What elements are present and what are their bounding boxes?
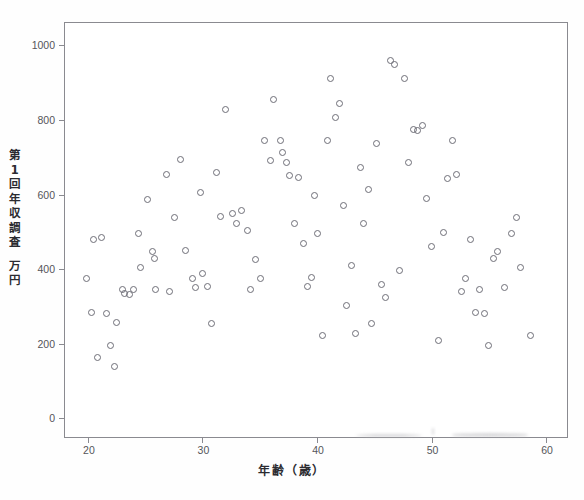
data-point <box>336 100 343 107</box>
data-point <box>327 75 334 82</box>
data-point <box>83 275 90 282</box>
data-point <box>387 57 394 64</box>
data-points-layer <box>65 23 567 437</box>
data-point <box>348 262 355 269</box>
data-point <box>261 137 268 144</box>
y-axis-title-char: 回 <box>6 177 24 192</box>
x-axis-tick: 40 <box>317 437 318 443</box>
data-point <box>314 230 321 237</box>
x-axis-tick-label: 20 <box>83 444 95 457</box>
data-point <box>283 159 290 166</box>
data-point <box>396 267 403 274</box>
data-point <box>401 75 408 82</box>
data-point <box>252 256 259 263</box>
data-point <box>304 283 311 290</box>
data-point <box>119 286 126 293</box>
data-point <box>373 140 380 147</box>
x-axis-tick: 60 <box>546 437 547 443</box>
data-point <box>103 310 110 317</box>
data-point <box>217 213 224 220</box>
data-point <box>527 332 534 339</box>
x-axis-tick-label: 40 <box>312 444 324 457</box>
data-point <box>319 332 326 339</box>
data-point <box>378 281 385 288</box>
data-point <box>247 286 254 293</box>
scan-smudge-icon <box>452 433 528 437</box>
data-point <box>144 196 151 203</box>
data-point <box>410 126 417 133</box>
y-axis-title-char: 査 <box>6 235 24 250</box>
y-axis-title-char: 万 <box>6 259 24 274</box>
y-axis-title-char: 調 <box>6 221 24 236</box>
data-point <box>111 363 118 370</box>
data-point <box>182 247 189 254</box>
y-axis-tick: 200 <box>59 344 65 345</box>
data-point <box>279 149 286 156</box>
data-point <box>163 171 170 178</box>
y-axis-tick-label: 800 <box>37 114 55 127</box>
data-point <box>197 189 204 196</box>
data-point <box>481 310 488 317</box>
data-point <box>308 274 315 281</box>
data-point <box>107 342 114 349</box>
data-point <box>88 309 95 316</box>
y-axis-title-char: 第 <box>6 148 24 163</box>
data-point <box>357 164 364 171</box>
data-point <box>177 156 184 163</box>
data-point <box>340 202 347 209</box>
y-axis-tick: 800 <box>59 120 65 121</box>
y-axis-tick-label: 600 <box>37 189 55 202</box>
data-point <box>517 264 524 271</box>
data-point <box>382 294 389 301</box>
data-point <box>332 114 339 121</box>
scatter-plot-figure: 第1回年収調査万円 02004006008001000 2030405060 年… <box>0 0 584 500</box>
data-point <box>300 240 307 247</box>
data-point <box>467 236 474 243</box>
data-point <box>94 354 101 361</box>
y-axis-title-char: 収 <box>6 206 24 221</box>
data-point <box>435 337 442 344</box>
data-point <box>135 230 142 237</box>
y-axis-tick: 600 <box>59 195 65 196</box>
data-point <box>267 157 274 164</box>
y-axis-tick-label: 400 <box>37 263 55 276</box>
data-point <box>90 236 97 243</box>
data-point <box>440 229 447 236</box>
y-axis-title-gap <box>6 250 24 259</box>
x-axis-tick: 20 <box>88 437 89 443</box>
x-axis-tick: 30 <box>202 437 203 443</box>
data-point <box>291 220 298 227</box>
data-point <box>513 214 520 221</box>
data-point <box>391 61 398 68</box>
y-axis-title-char: 年 <box>6 192 24 207</box>
data-point <box>257 275 264 282</box>
data-point <box>365 186 372 193</box>
y-axis-tick-label: 0 <box>49 412 55 425</box>
data-point <box>414 127 421 134</box>
data-point <box>343 302 350 309</box>
data-point <box>213 169 220 176</box>
data-point <box>130 286 137 293</box>
data-point <box>98 234 105 241</box>
x-axis-title: 年齢（歳） <box>0 461 584 478</box>
y-axis-title: 第1回年収調査万円 <box>6 148 24 288</box>
y-axis-tick: 0 <box>59 418 65 419</box>
scan-speck-icon <box>432 428 434 435</box>
data-point <box>270 96 277 103</box>
y-axis-title-char: 1 <box>6 163 24 178</box>
data-point <box>208 320 215 327</box>
data-point <box>311 192 318 199</box>
y-axis-tick-label: 1000 <box>32 39 55 52</box>
data-point <box>277 137 284 144</box>
data-point <box>405 159 412 166</box>
data-point <box>151 255 158 262</box>
data-point <box>199 270 206 277</box>
data-point <box>233 220 240 227</box>
data-point <box>295 174 302 181</box>
data-point <box>137 264 144 271</box>
data-point <box>428 243 435 250</box>
x-axis-tick: 50 <box>432 437 433 443</box>
data-point <box>286 172 293 179</box>
data-point <box>149 248 156 255</box>
scan-smudge-icon <box>356 434 422 437</box>
